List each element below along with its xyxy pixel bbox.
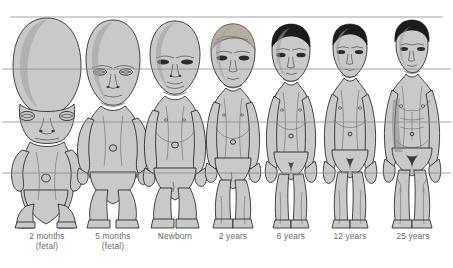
caption-12-years: 12 years (314, 231, 386, 241)
caption-25-years: 25 years (377, 231, 449, 241)
figure-2-months-fetal (11, 18, 82, 228)
stage-captions: 2 months (fetal) 5 months (fetal) Newbor… (0, 231, 453, 268)
caption-label: 25 years (377, 231, 449, 241)
caption-label: 12 years (314, 231, 386, 241)
caption-sublabel: (fetal) (73, 241, 153, 251)
growth-proportion-diagram: .fg{fill:#c9c9c9;stroke:#1a1a1a;stroke-w… (0, 0, 453, 268)
